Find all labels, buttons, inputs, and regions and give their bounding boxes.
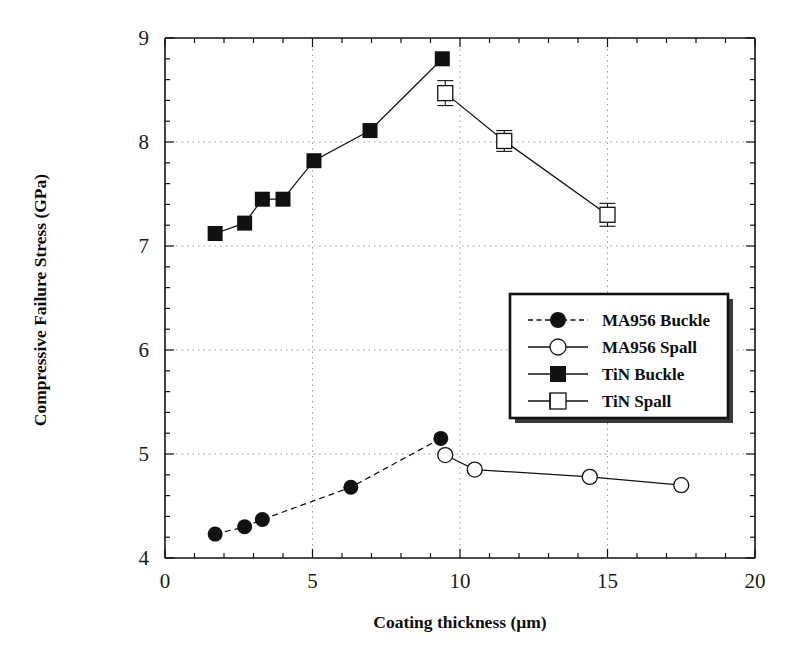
x-tick-label: 20 xyxy=(745,569,766,593)
marker-open-circle xyxy=(467,462,482,477)
y-tick-label: 8 xyxy=(139,130,150,154)
y-axis-title: Compressive Failure Stress (GPa) xyxy=(30,174,50,426)
series-tin-spall xyxy=(437,81,615,227)
marker-filled-square xyxy=(208,226,223,241)
marker-filled-circle xyxy=(550,312,566,328)
marker-filled-circle xyxy=(343,480,358,495)
series-line xyxy=(215,438,441,534)
series-line xyxy=(445,93,607,215)
marker-filled-circle xyxy=(237,519,252,534)
x-tick-label: 10 xyxy=(450,569,471,593)
legend-marker-open-square xyxy=(550,393,566,409)
y-tick-label: 6 xyxy=(139,338,150,362)
y-tick-label: 5 xyxy=(139,442,150,466)
marker-filled-circle xyxy=(255,512,270,527)
chart-figure: 05101520 456789 Coating thickness (µm) C… xyxy=(0,0,799,665)
marker-filled-square xyxy=(435,51,450,66)
legend-label-3: TiN Spall xyxy=(602,392,671,411)
marker-open-circle xyxy=(582,469,597,484)
marker-open-circle xyxy=(550,339,566,355)
x-tick-labels: 05101520 xyxy=(160,569,766,593)
y-tick-labels: 456789 xyxy=(139,26,150,570)
marker-open-square xyxy=(600,207,615,222)
marker-open-square xyxy=(438,86,453,101)
x-tick-label: 5 xyxy=(307,569,318,593)
marker-filled-square xyxy=(276,192,291,207)
marker-filled-circle xyxy=(433,431,448,446)
series-tin-buckle xyxy=(208,51,450,241)
x-axis-title: Coating thickness (µm) xyxy=(373,612,547,632)
legend-label-1: MA956 Spall xyxy=(602,338,697,357)
chart-canvas: 05101520 456789 Coating thickness (µm) C… xyxy=(0,0,799,665)
marker-open-circle xyxy=(674,478,689,493)
marker-filled-square xyxy=(550,366,566,382)
y-tick-label: 7 xyxy=(139,234,150,258)
x-tick-label: 0 xyxy=(160,569,171,593)
legend-label-2: TiN Buckle xyxy=(602,365,685,384)
marker-filled-square xyxy=(363,123,378,138)
y-tick-label: 9 xyxy=(139,26,150,50)
series-ma956-buckle xyxy=(208,431,449,542)
y-tick-label: 4 xyxy=(139,546,150,570)
marker-filled-circle xyxy=(208,527,223,542)
series-ma956-spall xyxy=(438,448,689,493)
x-tick-label: 15 xyxy=(597,569,618,593)
marker-filled-square xyxy=(237,216,252,231)
marker-open-square xyxy=(497,133,512,148)
legend-label-0: MA956 Buckle xyxy=(602,311,711,330)
marker-filled-square xyxy=(306,153,321,168)
marker-filled-square xyxy=(255,192,270,207)
marker-open-circle xyxy=(438,448,453,463)
legend: MA956 BuckleMA956 SpallTiN BuckleTiN Spa… xyxy=(510,294,733,423)
series-line xyxy=(215,59,442,234)
